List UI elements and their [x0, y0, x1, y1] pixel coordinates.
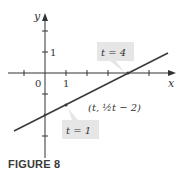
point-label: (t, ½t − 2)	[88, 102, 141, 113]
x-axis-arrow-icon	[168, 70, 176, 76]
origin-label: 0	[35, 78, 41, 89]
x-axis	[8, 70, 172, 76]
y-axis-arrow-icon	[42, 13, 48, 21]
x-tick-label-1: 1	[63, 78, 69, 89]
y-tick-label-1: 1	[50, 47, 56, 58]
parametric-line-diagram: y x 0 1 1 t = 4 t = 1 (t, ½t − 2)	[0, 0, 187, 178]
callout-t1-label: t = 1	[66, 125, 91, 136]
x-axis-label: x	[168, 77, 175, 90]
y-axis	[42, 18, 48, 158]
parametric-line	[14, 53, 168, 131]
callout-t4-label: t = 4	[101, 47, 126, 58]
figure-caption: FIGURE 8	[8, 158, 60, 170]
point-y-intercept	[44, 114, 47, 117]
point-t1	[65, 104, 68, 107]
point-t4	[127, 72, 130, 75]
y-axis-label: y	[33, 10, 41, 23]
